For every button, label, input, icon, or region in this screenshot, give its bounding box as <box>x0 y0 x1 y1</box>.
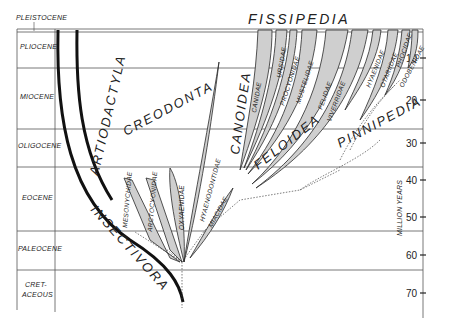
epoch-label-eocene: EOCENE <box>22 194 53 201</box>
epoch-label-oligocene: OLIGOCENE <box>18 142 62 149</box>
tick-60: 60 <box>406 250 418 261</box>
epoch-label-paleocene: PALEOCENE <box>18 245 62 252</box>
creodonta-label: CREODONTA <box>120 78 215 138</box>
tick-40: 40 <box>406 175 418 186</box>
epoch-label-cretaceous-1: CRET- <box>25 281 47 288</box>
pleistocene-label: PLEISTOCENE <box>16 14 67 21</box>
fissipedia-label: FISSIPEDIA <box>248 11 350 27</box>
time-axis: 10 20 30 40 50 60 70 MILLION YEARS <box>396 53 426 299</box>
mesonychidae-label: MESONYCHIDAE <box>121 171 133 228</box>
epoch-label-cretaceous-2: ACEOUS <box>21 291 53 298</box>
epoch-label-miocene: MIOCENE <box>20 93 54 100</box>
tick-70: 70 <box>406 288 418 299</box>
axis-label-million-years: MILLION YEARS <box>396 180 403 236</box>
oxyaenidae-label: OXYAENIDAE <box>178 185 185 230</box>
carnivore-phylogeny-diagram: PLEISTOCENE PLIOCENE MIOCENE OLIGOCENE E… <box>0 0 457 326</box>
artiodactyla-label: ARTIODACTYLA <box>86 53 129 178</box>
tick-50: 50 <box>406 212 418 223</box>
epoch-label-pliocene: PLIOCENE <box>20 43 57 50</box>
tick-30: 30 <box>406 138 418 149</box>
